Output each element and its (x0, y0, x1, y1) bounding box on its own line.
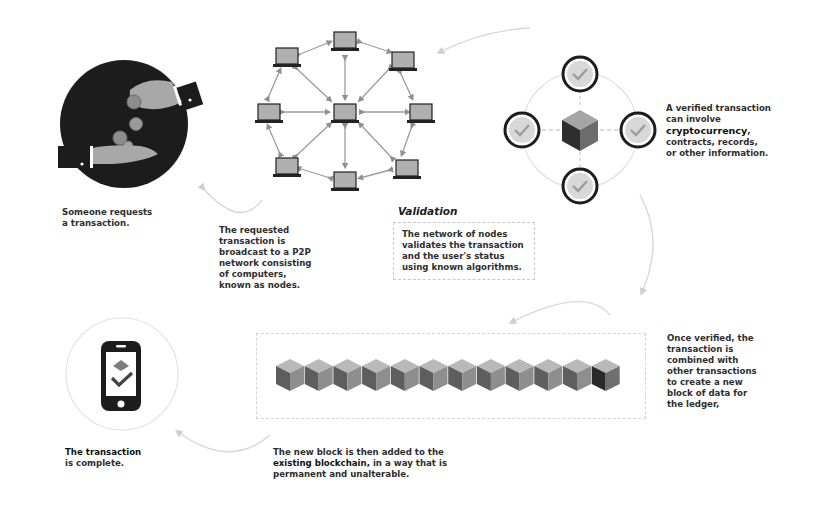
block-cube-icon (477, 359, 505, 391)
block-cube-icon (362, 359, 390, 391)
arrow-combined-to-chain (512, 302, 610, 322)
block-cube-icon (305, 359, 333, 391)
phone-icon (101, 341, 141, 411)
new-block-cube-icon (592, 359, 620, 391)
step-added-text: The new block is then added to the exist… (273, 447, 447, 480)
validation-heading: Validation (398, 205, 458, 217)
arrow-network-to-validation (440, 28, 530, 52)
transaction-complete-phone (62, 318, 182, 438)
check-badge-icon (621, 113, 655, 147)
step-verified-text: A verified transaction can involve crypt… (666, 103, 771, 159)
block-cube-icon (448, 359, 476, 391)
cube-icon (562, 110, 598, 151)
block-cube-icon (420, 359, 448, 391)
block-cube-icon (333, 359, 361, 391)
check-badge-icon (563, 57, 597, 91)
step-complete-text: The transaction is complete. (65, 447, 141, 469)
block-cube-icon (276, 359, 304, 391)
arrow-chain-to-complete (178, 432, 270, 452)
check-badge-icon (563, 169, 597, 203)
block-cube-icon (534, 359, 562, 391)
check-badge-icon (505, 113, 539, 147)
block-cube-icon (391, 359, 419, 391)
verification-cube-diagram (490, 50, 670, 210)
block-cube-icon (563, 359, 591, 391)
cryptocurrency-highlight: cryptocurrency (666, 125, 747, 136)
step-combined-text: Once verified, the transaction is combin… (667, 333, 757, 410)
step-broadcast-text: The requested transaction is broadcast t… (219, 225, 311, 291)
verified-highlight-line: cryptocurrency, (666, 125, 771, 137)
hands-coins-icon (52, 40, 212, 200)
p2p-network-diagram (240, 20, 440, 200)
step-request-text: Someone requests a transaction. (62, 207, 152, 229)
block-cube-icon (506, 359, 534, 391)
validation-description-box: The network of nodes validates the trans… (393, 222, 535, 280)
blockchain-cubes (276, 355, 656, 405)
